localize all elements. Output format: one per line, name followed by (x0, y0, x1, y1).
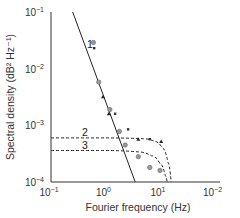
y-tick-label: 10−1 (25, 6, 44, 18)
marker-circle (108, 107, 112, 111)
x-tick-label: 10−2 (203, 186, 222, 198)
marker-circle (117, 129, 121, 133)
x-tick-label: 10−1 (39, 186, 58, 198)
x-axis-title: Fourier frequency (Hz) (85, 201, 190, 213)
marker-triangle (101, 95, 105, 99)
marker-triangle (159, 139, 163, 143)
y-axis-title: Spectral density (dB² Hz⁻¹) (4, 34, 16, 160)
marker-circle (148, 165, 152, 169)
curve-label-3: 3 (82, 139, 88, 151)
x-tick-label: 100 (96, 186, 111, 198)
marker-cross (93, 47, 95, 49)
y-tick-label: 10−3 (25, 119, 44, 131)
curve-label-1: 1 (87, 38, 93, 50)
marker-cross (149, 138, 151, 140)
marker-circle (96, 80, 100, 84)
y-tick-label: 10−2 (25, 63, 44, 75)
marker-cross (114, 113, 116, 115)
marker-circle (158, 168, 162, 172)
spectral-density-chart: 123 10−110−210−310−4 10−110010110−2 Four… (0, 0, 240, 218)
series-2-line (51, 138, 171, 182)
x-tick-labels: 10−110010110−2 (39, 186, 222, 198)
plot-area: 123 (51, 12, 171, 182)
x-tick-label: 101 (150, 186, 165, 198)
marker-circle (123, 143, 127, 147)
marker-cross (127, 128, 129, 130)
curve-label-2: 2 (82, 126, 88, 138)
marker-circle (136, 154, 140, 158)
y-tick-labels: 10−110−210−310−4 (25, 6, 44, 188)
marker-triangle (136, 137, 140, 141)
